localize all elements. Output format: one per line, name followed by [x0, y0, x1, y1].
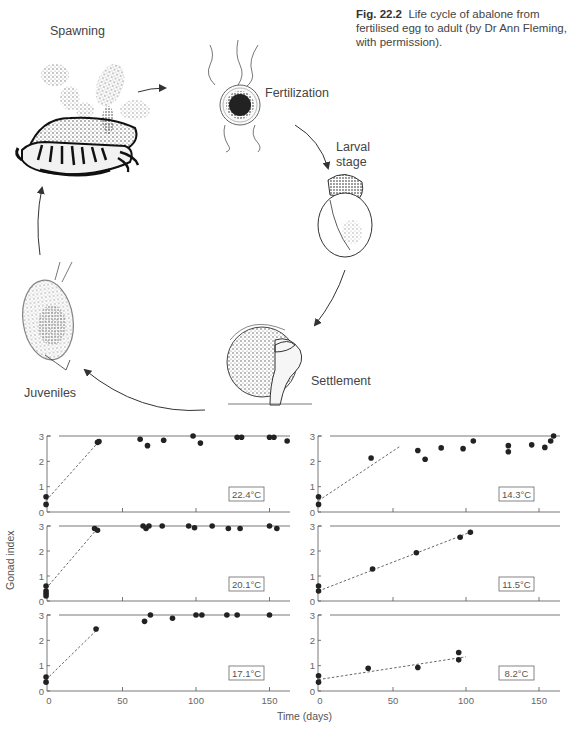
y-tick-label: 0 [39, 596, 44, 607]
y-axis-label-text: Gonad index [4, 530, 16, 590]
data-point [456, 650, 462, 656]
x-tick-label: 150 [531, 695, 547, 706]
data-point [159, 523, 165, 529]
data-point [506, 443, 512, 449]
data-point [239, 434, 245, 440]
life-cycle-drawing [0, 0, 580, 420]
y-tick-label: 0 [310, 596, 315, 607]
data-point [368, 455, 374, 461]
y-tick-label: 2 [310, 546, 315, 557]
gonad-index-charts: 012322.4°C012320.1°C012305010015017.1°C0… [0, 420, 580, 746]
y-tick-label: 3 [310, 610, 315, 621]
chart-panel-3: 012314.3°C [310, 431, 560, 518]
data-point [161, 438, 167, 444]
y-tick-label: 3 [39, 610, 44, 621]
data-point [267, 523, 273, 529]
arrow-settlement-to-juveniles [85, 370, 205, 411]
data-point [43, 494, 49, 500]
chart-panel-5: 01230501001508.2°C [310, 610, 560, 707]
stage-label-spawning: Spawning [50, 24, 105, 38]
data-point [506, 449, 512, 455]
data-point [93, 626, 99, 632]
data-point [415, 448, 421, 454]
stage-label-fertilization: Fertilization [265, 86, 329, 100]
y-tick-label: 1 [310, 660, 315, 671]
y-tick-label: 2 [310, 635, 315, 646]
temperature-label: 22.4°C [232, 489, 261, 500]
x-tick-label: 100 [188, 695, 204, 706]
data-point [43, 588, 49, 594]
temperature-label: 8.2°C [505, 668, 529, 679]
data-point [96, 439, 102, 445]
y-tick-label: 2 [39, 456, 44, 467]
x-tick-label: 50 [117, 695, 128, 706]
data-point [199, 612, 205, 618]
data-point [43, 679, 49, 685]
data-point [316, 502, 322, 508]
chart-panel-0: 012322.4°C [39, 431, 290, 518]
data-point [148, 612, 154, 618]
data-point [316, 679, 322, 685]
fertilized-egg-icon [208, 40, 260, 152]
x-axis-label: Time (days) [277, 710, 332, 722]
larva-icon [318, 174, 372, 257]
data-point [267, 612, 273, 618]
stage-label-larval: Larval stage [336, 140, 386, 170]
spawning-abalone-icon [17, 60, 150, 175]
data-point [316, 494, 322, 500]
data-point [316, 673, 322, 679]
data-point [145, 443, 151, 449]
charts-svg: 012322.4°C012320.1°C012305010015017.1°C0… [0, 420, 580, 746]
y-tick-label: 3 [39, 521, 44, 532]
arrow-juveniles-to-spawning [38, 188, 42, 255]
data-point [224, 612, 230, 618]
data-point [316, 588, 322, 594]
data-point [43, 674, 49, 680]
y-tick-label: 0 [39, 686, 44, 697]
data-point [551, 433, 557, 439]
juvenile-abalone-icon [18, 262, 79, 370]
x-tick-label: 100 [458, 695, 474, 706]
data-point [271, 434, 277, 440]
data-point [226, 526, 232, 532]
x-tick-label: 150 [262, 695, 278, 706]
stage-label-settlement: Settlement [311, 374, 371, 388]
stage-label-juveniles: Juveniles [24, 386, 76, 400]
data-point [186, 523, 192, 529]
y-tick-label: 1 [310, 571, 315, 582]
y-tick-label: 1 [310, 481, 315, 492]
data-point [237, 526, 243, 532]
arrow-spawning-to-fertilization [138, 88, 165, 92]
data-point [457, 534, 463, 540]
data-point [274, 526, 280, 532]
y-tick-label: 3 [310, 431, 315, 442]
y-tick-label: 1 [39, 481, 44, 492]
data-point [198, 440, 204, 446]
data-point [43, 583, 49, 589]
arrow-fertilization-to-larval [295, 125, 328, 168]
y-tick-label: 1 [39, 571, 44, 582]
data-point [365, 665, 371, 671]
data-point [415, 665, 421, 671]
data-point [422, 457, 428, 463]
data-point [316, 583, 322, 589]
x-tick-label: 0 [317, 695, 322, 706]
data-point [209, 523, 215, 529]
y-tick-label: 3 [310, 521, 315, 532]
data-point [190, 433, 196, 439]
y-tick-label: 2 [39, 635, 44, 646]
data-point [370, 566, 376, 572]
y-tick-label: 3 [39, 431, 44, 442]
temperature-label: 17.1°C [232, 668, 261, 679]
data-point [193, 612, 199, 618]
data-point [137, 436, 143, 442]
data-point [548, 438, 554, 444]
y-axis-label: Gonad index [4, 530, 16, 590]
data-point [192, 525, 198, 531]
data-point [284, 438, 290, 444]
data-point [142, 619, 148, 625]
y-tick-label: 0 [310, 507, 315, 518]
data-point [529, 442, 535, 448]
data-point [43, 502, 49, 508]
settled-larva-icon [227, 324, 312, 405]
